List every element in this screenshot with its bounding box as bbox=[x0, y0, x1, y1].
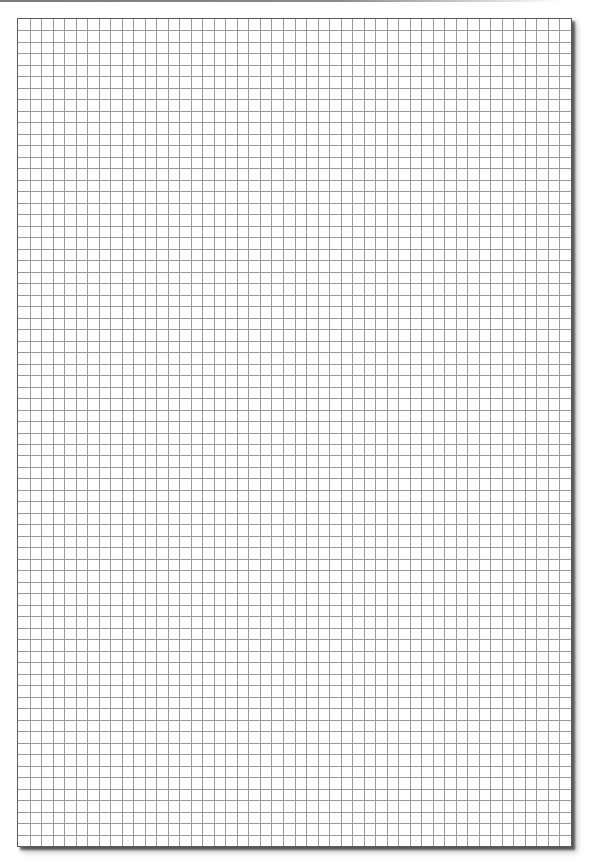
grid-lines bbox=[18, 19, 571, 846]
graph-paper-page bbox=[17, 18, 572, 847]
top-edge-strip bbox=[0, 0, 560, 2]
